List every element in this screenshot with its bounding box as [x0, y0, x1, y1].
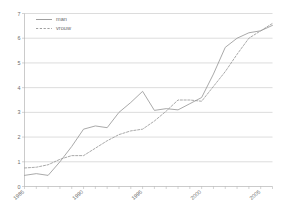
- y-tick-label: 5: [18, 60, 21, 66]
- y-tick-label: 2: [18, 134, 21, 140]
- y-tick-label: 4: [18, 85, 21, 91]
- x-axis-tick-labels: 19851990199520002005: [12, 189, 261, 201]
- series-line-man: [25, 25, 273, 175]
- x-tick-label: 1990: [71, 189, 84, 201]
- y-tick-label: 1: [18, 159, 21, 165]
- y-axis-tick-labels: 01234567: [18, 11, 21, 190]
- x-tick-label: 2000: [189, 189, 202, 201]
- chart-legend: manvrouw: [36, 16, 72, 31]
- line-chart: 01234567 19851990199520002005 manvrouw: [0, 0, 288, 218]
- y-tick-label: 6: [18, 35, 21, 41]
- x-tick-marks: [25, 187, 273, 190]
- gridlines: [25, 14, 273, 162]
- y-tick-label: 7: [18, 11, 21, 17]
- chart-canvas: 01234567 19851990199520002005 manvrouw: [0, 0, 288, 218]
- legend-label-vrouw: vrouw: [56, 25, 72, 31]
- y-tick-label: 3: [18, 109, 21, 115]
- legend-label-man: man: [56, 16, 67, 22]
- x-tick-label: 1995: [130, 189, 143, 201]
- series-line-vrouw: [25, 23, 273, 168]
- x-tick-label: 2005: [248, 189, 261, 201]
- x-tick-label: 1985: [12, 189, 25, 201]
- y-tick-marks: [22, 14, 25, 187]
